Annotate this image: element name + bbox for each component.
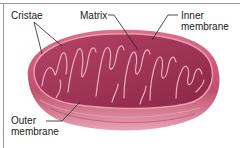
leader-cristae-1 [34,22,42,54]
label-cristae-text: Cristae [11,10,43,21]
label-inner-line1: Inner [181,10,229,21]
label-matrix-text: Matrix [80,10,107,21]
label-matrix: Matrix [80,10,107,21]
label-outer-membrane: Outer membrane [11,115,59,137]
label-inner-line2: membrane [181,21,229,32]
mitochondrion-diagram: Cristae Matrix Inner membrane Outer memb… [0,0,240,148]
label-outer-line2: membrane [11,126,59,137]
label-cristae: Cristae [11,10,43,21]
label-outer-line1: Outer [11,115,59,126]
label-inner-membrane: Inner membrane [181,10,229,32]
leader-cristae-2 [34,22,62,46]
